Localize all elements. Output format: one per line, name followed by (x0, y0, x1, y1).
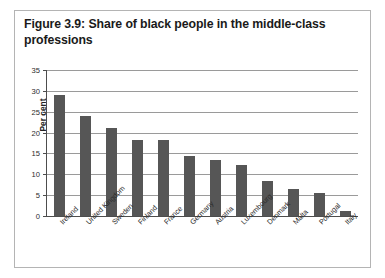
y-tick-mark (43, 153, 46, 154)
y-tick-mark (43, 70, 46, 71)
bar (158, 140, 169, 216)
y-tick-mark (43, 195, 46, 196)
gridline (47, 91, 358, 92)
bar (236, 165, 247, 216)
plot-area (47, 70, 358, 216)
y-tick-mark (43, 133, 46, 134)
gridline (47, 112, 358, 113)
y-tick-label: 15 (10, 149, 40, 158)
gridline (47, 133, 358, 134)
bar (54, 95, 65, 216)
gridline (47, 153, 358, 154)
y-tick-label: 35 (10, 66, 40, 75)
gridline (47, 174, 358, 175)
bar (184, 156, 195, 216)
gridline (47, 70, 358, 71)
gridline (47, 195, 358, 196)
y-tick-label: 10 (10, 170, 40, 179)
bar (80, 116, 91, 216)
figure-container: Figure 3.9: Share of black people in the… (0, 0, 385, 278)
y-tick-label: 30 (10, 87, 40, 96)
chart-plot-wrapper: Per cent 05101520253035 IrelandUnited Ki… (0, 0, 385, 278)
y-tick-mark (43, 91, 46, 92)
y-tick-mark (43, 216, 46, 217)
y-tick-mark (43, 174, 46, 175)
y-tick-label: 25 (10, 108, 40, 117)
y-tick-label: 5 (10, 191, 40, 200)
y-tick-label: 0 (10, 212, 40, 221)
y-tick-label: 20 (10, 129, 40, 138)
y-tick-mark (43, 112, 46, 113)
bar (132, 140, 143, 216)
